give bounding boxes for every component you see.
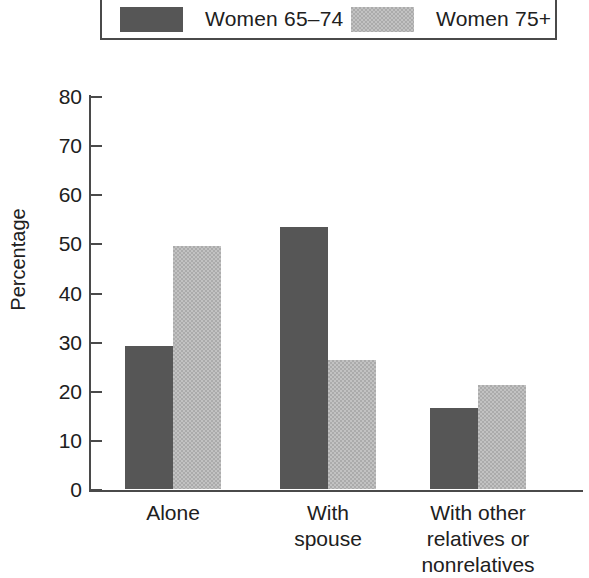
x-axis-category-label-line: nonrelatives (383, 552, 573, 578)
bar-women-75-plus (478, 385, 526, 489)
y-axis-tick-label: 70 (36, 134, 82, 158)
bar-women-65-74 (125, 346, 173, 489)
x-axis-category-label-line: With other (383, 500, 573, 526)
bar-women-65-74 (430, 408, 478, 489)
y-axis-tick-label: 0 (36, 478, 82, 502)
y-axis-tick (89, 489, 102, 491)
y-axis-tick-label: 40 (36, 282, 82, 306)
plot-area (89, 97, 583, 489)
legend-label-women-75-plus: Women 75+ (436, 7, 551, 31)
legend-entry-women-75-plus: Women 75+ (351, 0, 551, 38)
bar-group (280, 97, 376, 489)
legend-swatch-icon-women-75-plus (351, 7, 414, 32)
y-axis-tick-label: 60 (36, 183, 82, 207)
y-axis-tick-labels: 80706050403020100 (28, 0, 82, 578)
legend-entry-women-65-74: Women 65–74 (120, 0, 343, 38)
bar-chart-figure: Women 65–74 Women 75+ Percentage 8070605… (0, 0, 589, 578)
bar-women-65-74 (280, 227, 328, 489)
x-axis-line (89, 490, 583, 492)
legend-swatch-icon-women-65-74 (120, 7, 183, 32)
legend-label-women-65-74: Women 65–74 (205, 7, 343, 31)
x-axis-category-label: With otherrelatives ornonrelatives (383, 500, 573, 578)
y-axis-title: Percentage (7, 150, 30, 370)
bar-women-75-plus (328, 360, 376, 489)
chart-legend: Women 65–74 Women 75+ (100, 0, 557, 40)
y-axis-tick-label: 10 (36, 429, 82, 453)
x-axis-category-label-line: relatives or (383, 526, 573, 552)
bar-women-75-plus (173, 246, 221, 489)
bar-group (430, 97, 526, 489)
y-axis-tick-label: 30 (36, 331, 82, 355)
bar-group (125, 97, 221, 489)
y-axis-tick-label: 50 (36, 232, 82, 256)
y-axis-tick-label: 20 (36, 380, 82, 404)
y-axis-tick-label: 80 (36, 85, 82, 109)
